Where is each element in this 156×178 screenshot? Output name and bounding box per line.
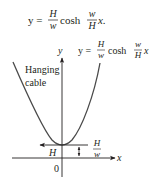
curve-eq-frac2-den: H xyxy=(134,50,142,60)
tension-label: H xyxy=(48,147,57,158)
eq-lhs: y = xyxy=(28,14,42,26)
eq-frac2-den: H xyxy=(87,20,96,31)
curve-eq-tail: x xyxy=(143,45,149,56)
curve-equation-label: y = H w cosh w H x xyxy=(78,39,149,60)
curve-eq-frac1-num: H xyxy=(97,39,105,49)
curve-eq-frac1-den: w xyxy=(98,50,104,60)
curve-eq-frac2-num: w xyxy=(135,39,141,49)
eq-frac1-num: H xyxy=(48,8,57,19)
height-label-num: H xyxy=(93,138,101,148)
curve-eq-lhs: y = xyxy=(78,45,92,56)
catenary-diagram: y = H w cosh w H x. y = H w cosh w H x x… xyxy=(0,0,156,178)
eq-frac2-num: w xyxy=(89,8,96,19)
eq-func: cosh xyxy=(60,14,81,26)
x-axis-label: x xyxy=(116,152,122,163)
cable-label-line2: cable xyxy=(25,77,47,88)
origin-label: 0 xyxy=(54,163,59,174)
eq-tail: x. xyxy=(97,14,106,26)
y-axis-label: y xyxy=(57,45,63,56)
height-label: H w xyxy=(93,138,101,159)
eq-frac1-den: w xyxy=(50,20,57,31)
top-equation: y = H w cosh w H x. xyxy=(28,8,106,31)
cable-label-line1: Hanging xyxy=(25,64,59,75)
curve-eq-func: cosh xyxy=(108,45,126,56)
height-label-den: w xyxy=(94,149,100,159)
